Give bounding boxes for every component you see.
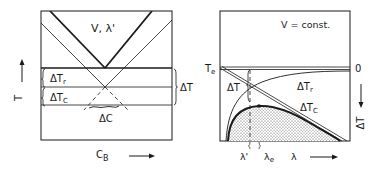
delta-tc-label: ΔTC [50,92,68,105]
delta-tr-label: ΔTr [50,73,66,86]
thick-v-right [105,11,152,68]
zero-label: 0 [355,63,361,74]
brace-dt-right [174,69,178,105]
lambda-axis-arrowhead [332,155,338,160]
region-label: V, λ' [91,22,115,35]
delta-c-label: ΔC [99,113,113,124]
lambda-e-label: λe [264,151,274,164]
left-panel: V, λ' ΔTr ΔTC ΔT ΔC T CB [13,11,194,163]
t-axis-label: T [13,94,24,102]
diagram-canvas: V, λ' ΔTr ΔTC ΔT ΔC T CB V = const. [0,0,385,173]
brace-dtc [42,88,46,106]
brace-lambda-prime [249,142,251,149]
t-axis-arrowhead [20,59,25,65]
dtr-label: ΔTr [297,81,313,94]
dt-down-arrowhead [359,102,364,108]
condition-label: V = const. [281,19,330,30]
dtc-label: ΔTC [300,102,318,115]
dt-axis-label: ΔT [355,116,366,130]
brace-dc [89,106,119,108]
cb-axis-arrowhead [149,154,155,159]
cb-axis-label: CB [96,149,108,163]
brace-dtr [42,69,46,87]
lambda-axis-label: λ [291,151,297,162]
right-panel: V = const. ΔT Te 0 ΔTr ΔTC λ' λe λ [204,11,366,164]
brace-lambda-e [259,142,261,149]
lambda-prime-label: λ' [240,151,248,162]
te-label: Te [204,63,215,76]
delta-t-inner-label: ΔT [227,82,241,93]
delta-t-label-left: ΔT [180,82,194,93]
max-point [257,104,261,108]
